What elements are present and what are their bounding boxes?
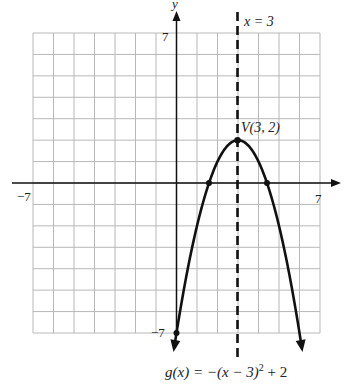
- x-max-label: 7: [315, 191, 322, 206]
- function-label-tail: + 2: [264, 364, 287, 380]
- y-min-label: −7: [151, 325, 165, 340]
- parabola-graph: y 7 −7 −7 7 x = 3 V(3, 2) g(x) = −(x − 3…: [0, 0, 346, 388]
- function-label: g(x) = −(x − 3)2 + 2: [165, 362, 287, 381]
- right-arrow-icon: [296, 339, 306, 352]
- y-max-label: 7: [162, 29, 169, 44]
- x-intercept-right: [264, 180, 270, 186]
- x-min-label: −7: [17, 189, 31, 204]
- y-intercept-point: [174, 330, 180, 336]
- function-label-main: g(x) = −(x − 3): [165, 364, 259, 381]
- y-axis-label: y: [170, 0, 178, 11]
- y-axis-arrow-icon: [173, 11, 181, 21]
- vertex-label: V(3, 2): [241, 120, 280, 136]
- vertex-point: [234, 137, 240, 143]
- x-axis-arrow-icon: [331, 179, 341, 187]
- x-intercept-left: [206, 180, 212, 186]
- left-arrow-icon: [170, 339, 180, 352]
- symmetry-label: x = 3: [243, 14, 274, 29]
